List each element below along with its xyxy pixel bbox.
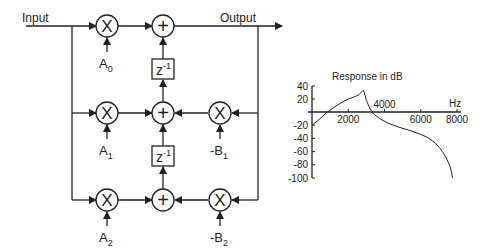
add-symbol-2: + xyxy=(157,189,169,211)
multiply-symbol-a0: X xyxy=(101,17,112,36)
multiply-symbol-b2: X xyxy=(214,191,225,210)
x-tick-label: 8000 xyxy=(446,114,469,125)
y-tick-label: -60 xyxy=(294,146,309,157)
y-tick-label: -40 xyxy=(294,133,309,144)
coef-b1-label: -B1 xyxy=(210,143,228,161)
coef-a0-label: A0 xyxy=(99,56,113,74)
coef-a2-label: A2 xyxy=(99,230,113,248)
chart-title: Response in dB xyxy=(332,71,403,82)
y-tick-label: -20 xyxy=(294,120,309,131)
iir-filter-figure: X X X X X + + + z-1 z-1 Input Output A0 … xyxy=(0,0,488,251)
y-tick-label: -100 xyxy=(288,173,308,184)
input-label: Input xyxy=(22,11,49,25)
x-axis-label: Hz xyxy=(449,98,461,109)
y-tick-label: 20 xyxy=(297,94,309,105)
multiply-symbol-b1: X xyxy=(214,104,225,123)
y-tick-label: -80 xyxy=(294,159,309,170)
add-symbol-1: + xyxy=(157,102,169,124)
x-tick-label: 2000 xyxy=(337,114,360,125)
multiply-symbol-a2: X xyxy=(101,191,112,210)
multiply-symbol-a1: X xyxy=(101,104,112,123)
output-label: Output xyxy=(220,11,257,25)
x-tick-label: 6000 xyxy=(410,114,433,125)
coef-b2-label: -B2 xyxy=(210,230,228,248)
y-tick-label: 40 xyxy=(297,81,309,92)
block-diagram xyxy=(26,15,282,226)
coef-a1-label: A1 xyxy=(99,143,113,161)
response-chart: Response in dB Hz 4020-20-40-60-80-10020… xyxy=(288,71,469,184)
add-symbol-0: + xyxy=(157,15,169,37)
x-tick-label: 4000 xyxy=(373,99,396,110)
